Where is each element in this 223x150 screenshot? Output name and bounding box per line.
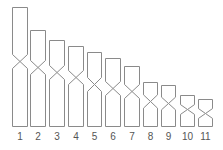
chromosome-p-arm [88, 53, 102, 85]
chromosome-q-arm [125, 92, 140, 127]
chromosome-q-arm [50, 73, 65, 127]
chromosome-q-arm [88, 85, 102, 127]
karyotype-diagram: 1234567891011 [0, 0, 223, 150]
chromosome-p-arm [125, 67, 140, 92]
chromosome-p-arm [181, 96, 195, 110]
chromosome-1 [13, 8, 28, 127]
chromosome-label: 9 [166, 131, 172, 142]
chromosome-q-arm [181, 110, 195, 127]
chromosome-label: 11 [200, 131, 211, 142]
chromosome-p-arm [13, 8, 28, 62]
chromosome-q-arm [106, 89, 121, 127]
chromosome-labels: 1234567891011 [17, 131, 211, 142]
chromosome-q-arm [162, 104, 176, 127]
chromosome-3 [50, 41, 65, 127]
chromosome-q-arm [69, 78, 84, 127]
chromosome-label: 4 [73, 131, 79, 142]
chromosome-p-arm [144, 83, 158, 102]
chromosome-p-arm [106, 59, 121, 89]
chromosome-p-arm [31, 31, 46, 68]
chromosome-label: 2 [35, 131, 41, 142]
chromosome-7 [125, 67, 140, 127]
chromosome-label: 5 [92, 131, 98, 142]
chromosome-p-arm [50, 41, 65, 73]
chromosome-q-arm [13, 62, 28, 127]
chromosome-label: 1 [17, 131, 23, 142]
chromosome-p-arm [69, 47, 84, 78]
chromosome-label: 6 [110, 131, 116, 142]
chromosome-p-arm [199, 100, 213, 114]
chromosome-4 [69, 47, 84, 127]
chromosome-8 [144, 83, 158, 127]
chromosome-p-arm [162, 86, 176, 104]
chromosome-q-arm [199, 114, 213, 127]
chromosome-label: 8 [148, 131, 154, 142]
chromosome-11 [199, 100, 213, 127]
chromosome-q-arm [31, 68, 46, 127]
chromosome-9 [162, 86, 176, 127]
chromosome-group [13, 8, 213, 127]
chromosome-6 [106, 59, 121, 127]
chromosome-10 [181, 96, 195, 127]
chromosome-5 [88, 53, 102, 127]
chromosome-q-arm [144, 102, 158, 127]
chromosome-label: 3 [54, 131, 60, 142]
chromosome-label: 10 [182, 131, 194, 142]
chromosome-2 [31, 31, 46, 127]
chromosome-label: 7 [129, 131, 135, 142]
